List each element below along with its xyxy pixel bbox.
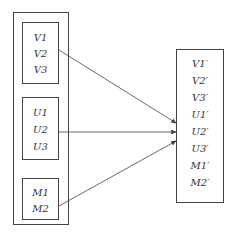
arrows-layer xyxy=(0,0,227,242)
arrow-v-to-right xyxy=(59,50,176,123)
arrow-m-to-right xyxy=(59,141,176,206)
